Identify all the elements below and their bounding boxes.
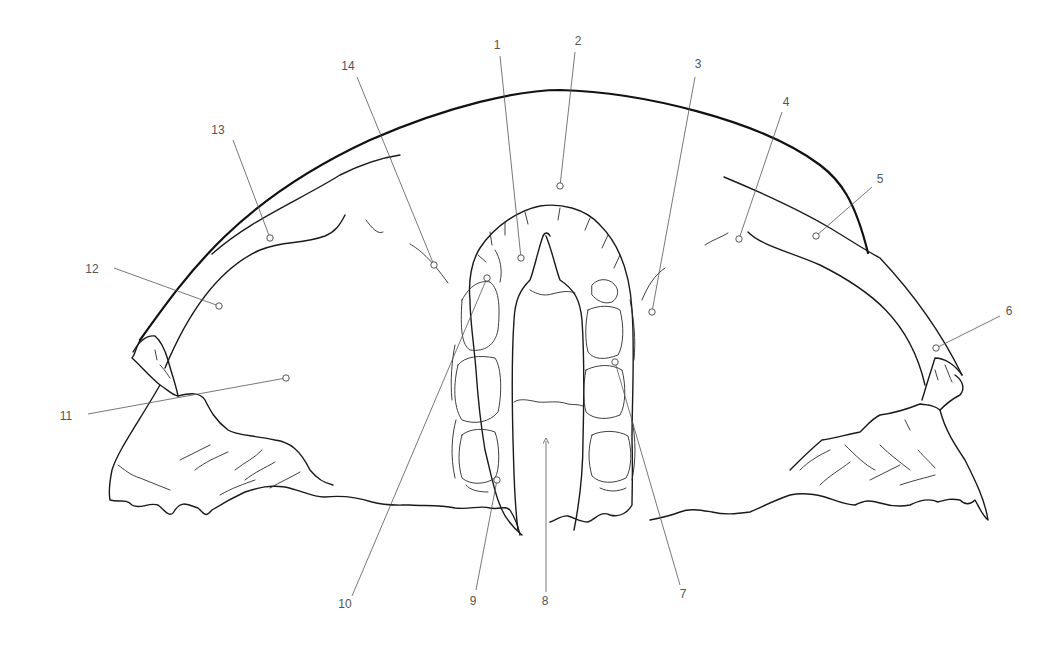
left-fragment-1 <box>366 220 383 233</box>
callout-marker-icon <box>649 309 655 315</box>
leader-line <box>352 278 487 596</box>
callout-marker-icon <box>484 275 490 281</box>
left-tooth-3 <box>459 429 499 483</box>
callout-number: 7 <box>680 587 687 601</box>
dental-arch-outer <box>469 205 633 535</box>
leader-line <box>936 316 1000 348</box>
callout-marker-icon <box>431 262 437 268</box>
callout-4: 4 <box>736 95 790 242</box>
callout-number: 6 <box>1006 304 1013 318</box>
callout-marker-icon <box>518 255 524 261</box>
right-lateral-mass <box>790 375 963 470</box>
leader-line <box>476 480 497 590</box>
callout-9: 9 <box>470 477 501 608</box>
right-lower-border <box>650 410 988 520</box>
callout-number: 14 <box>341 59 355 73</box>
right-inner-arc <box>724 177 962 375</box>
callout-8: 8 <box>542 441 549 608</box>
callout-layer: 1234567891011121314 <box>60 34 1013 611</box>
right-floor-hatching <box>800 420 935 485</box>
leader-line <box>500 56 521 258</box>
left-floor-hatching <box>118 445 300 495</box>
callout-12: 12 <box>85 262 222 309</box>
callout-10: 10 <box>338 275 490 611</box>
right-tooth-1 <box>592 280 618 303</box>
leader-line <box>357 77 434 265</box>
left-lateral-mass <box>132 340 333 485</box>
callout-5: 5 <box>813 172 884 239</box>
right-temporal-line <box>748 232 925 385</box>
right-process-hatch <box>935 365 952 382</box>
leader-line <box>652 77 695 312</box>
callout-marker-icon <box>612 359 618 365</box>
palatal-suture-lower <box>514 400 583 406</box>
callout-number: 4 <box>783 95 790 109</box>
right-tooth-borders <box>600 300 635 491</box>
callout-marker-icon <box>557 183 563 189</box>
leader-line <box>615 362 680 585</box>
leader-line <box>560 52 575 186</box>
callout-2: 2 <box>557 34 582 189</box>
callout-number: 1 <box>494 38 501 52</box>
skull-base-diagram: 1234567891011121314 <box>0 0 1061 656</box>
callout-number: 8 <box>542 594 549 608</box>
left-inner-arc <box>212 155 400 254</box>
callout-13: 13 <box>211 123 273 241</box>
leader-line <box>114 268 219 306</box>
callout-marker-icon <box>736 236 742 242</box>
callout-number: 10 <box>338 597 352 611</box>
cranial-vault-outline <box>140 90 868 340</box>
left-lower-border <box>109 385 520 535</box>
left-process-hatch <box>155 350 170 378</box>
right-fragment-1 <box>705 233 728 245</box>
callout-7: 7 <box>612 359 687 601</box>
callout-14: 14 <box>341 59 437 268</box>
callout-marker-icon <box>283 375 289 381</box>
right-fragment-2 <box>642 268 665 300</box>
right-tooth-4 <box>589 431 631 482</box>
dental-arch-inner-left <box>512 236 543 530</box>
callout-marker-icon <box>216 303 222 309</box>
callout-number: 2 <box>575 34 582 48</box>
callout-marker-icon <box>494 477 500 483</box>
callout-number: 3 <box>695 57 702 71</box>
leader-line <box>739 112 782 239</box>
callout-number: 11 <box>60 409 73 423</box>
callout-number: 12 <box>85 262 99 276</box>
callout-number: 5 <box>877 172 884 186</box>
leader-line <box>816 187 872 236</box>
palatal-suture-upper <box>530 290 575 295</box>
left-tooth-borders <box>451 345 488 492</box>
right-tooth-2 <box>586 306 623 358</box>
callout-3: 3 <box>649 57 702 315</box>
left-tooth-1 <box>461 282 499 351</box>
callout-number: 13 <box>211 123 225 137</box>
dental-arch-inner-right <box>546 236 584 530</box>
left-temporal-line <box>165 215 345 368</box>
callout-marker-icon <box>933 345 939 351</box>
callout-marker-icon <box>813 233 819 239</box>
callout-number: 9 <box>470 594 477 608</box>
leader-line <box>88 378 286 414</box>
left-fragment-2 <box>410 244 448 283</box>
callout-marker-icon <box>267 235 273 241</box>
